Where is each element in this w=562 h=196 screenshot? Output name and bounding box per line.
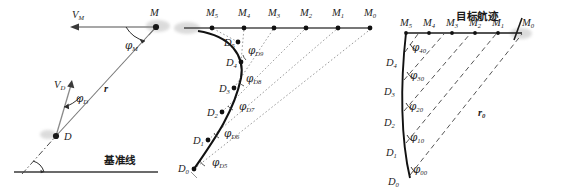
label-m5: M5: [206, 8, 218, 19]
point-marker-m2: [304, 26, 309, 31]
vm-arrowhead: [70, 23, 79, 30]
left-panel-canvas: [0, 0, 186, 196]
label-point-d: D: [64, 132, 72, 143]
label-phi-d8: φD8: [246, 73, 261, 85]
sight-line-0: [194, 28, 372, 169]
point-marker-d3: [232, 86, 237, 91]
angle-arc-4: [243, 55, 246, 60]
panel-target-track: 目标航迹 M5 M4 M3 M2 M1 M0 D4 D3 D2 D1 D0 φ4…: [374, 0, 562, 196]
label-d0-r: D0: [388, 177, 399, 188]
m0-tick: [514, 18, 522, 40]
point-marker-d: [53, 133, 59, 139]
label-phi-10: φ10: [410, 132, 424, 144]
label-m0-r: M0: [522, 18, 534, 29]
label-m3: M3: [268, 8, 280, 19]
label-vd: VD: [54, 80, 65, 91]
label-phi-40: φ40: [412, 42, 426, 54]
label-phi-m: φM: [125, 40, 138, 52]
label-phi-d: φD: [76, 93, 88, 105]
label-d3-r: D3: [384, 87, 395, 98]
label-vm: VM: [72, 10, 84, 21]
point-marker-m5: [210, 26, 215, 31]
vd-arrowhead: [67, 80, 74, 88]
point-marker-m1: [336, 26, 341, 31]
baseline-angle-arc: [33, 161, 44, 172]
point-marker-m1-r: [496, 31, 500, 35]
point-marker-d0: [192, 167, 197, 172]
label-d1: D1: [193, 136, 204, 147]
label-phi-20: φ20: [409, 101, 423, 113]
interceptor-trajectory: [194, 31, 242, 169]
label-m5-r: M5: [400, 18, 412, 29]
point-marker-d4: [239, 60, 244, 65]
label-d4: D4: [226, 58, 237, 69]
label-m4: M4: [238, 8, 250, 19]
diagram-root: VM M φM r VD φD D 基准线: [0, 0, 562, 196]
label-m1: M1: [332, 8, 344, 19]
label-point-m: M: [150, 8, 159, 19]
point-marker-m4-r: [427, 31, 431, 35]
range-line-0: [410, 34, 522, 175]
point-marker-d2: [220, 110, 225, 115]
right-panel-canvas: [374, 0, 562, 196]
label-phi-30: φ30: [410, 70, 424, 82]
point-marker-m2-r: [473, 31, 477, 35]
panel-sampled-trajectory: M5 M4 M3 M2 M1 M0 D5 D4 D3 D2 D1 D0 φD9 …: [186, 0, 374, 196]
label-d4-r: D4: [386, 58, 397, 69]
label-m1-r: M1: [492, 18, 504, 29]
point-marker-m: [153, 24, 159, 30]
point-marker-m3-r: [450, 31, 454, 35]
label-d3: D3: [219, 84, 230, 95]
point-marker-m4: [242, 26, 247, 31]
label-d0: D0: [178, 164, 189, 175]
label-d1-r: D1: [386, 148, 397, 159]
label-r0: r0: [478, 108, 485, 119]
panel-instantaneous-geometry: VM M φM r VD φD D 基准线: [0, 0, 186, 196]
point-marker-m5-r: [404, 31, 408, 35]
label-d5: D5: [224, 38, 235, 49]
label-d2: D2: [207, 108, 218, 119]
point-marker-m0: [368, 26, 373, 31]
point-marker-d5: [236, 40, 241, 45]
label-phi-d6: φD6: [224, 128, 239, 140]
label-m2-r: M2: [469, 18, 481, 29]
label-d2-r: D2: [384, 118, 395, 129]
point-marker-m3: [272, 26, 277, 31]
dash-dot-axis: [22, 136, 56, 174]
label-r: r: [104, 84, 108, 95]
label-phi-d7: φD7: [239, 101, 254, 113]
label-phi-d5: φD5: [212, 157, 227, 169]
label-phi-d9: φD9: [248, 45, 263, 57]
label-m4-r: M4: [423, 18, 435, 29]
label-m3-r: M3: [446, 18, 458, 29]
label-phi-00: φ00: [413, 164, 427, 176]
trajectory-tail: [191, 172, 197, 178]
label-baseline-cn: 基准线: [104, 152, 136, 167]
label-m2: M2: [300, 8, 312, 19]
point-marker-d1: [206, 138, 211, 143]
